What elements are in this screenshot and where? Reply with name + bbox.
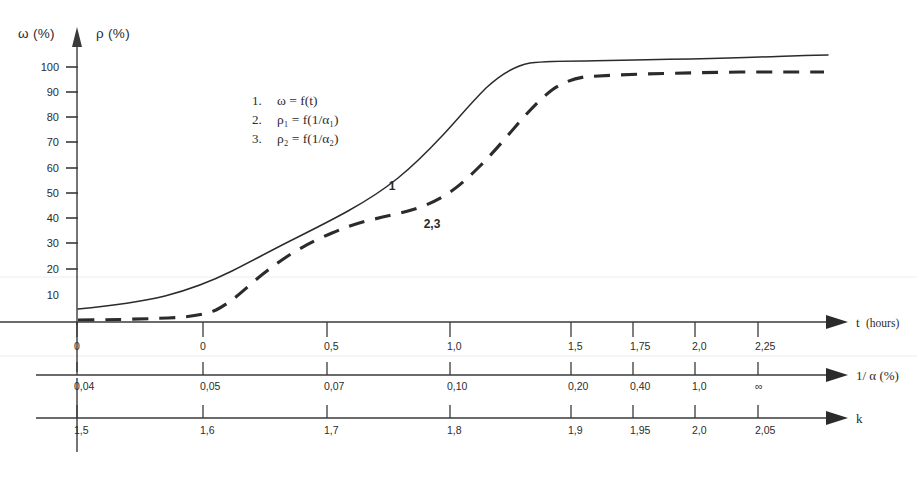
alpha-axis-arrow: [826, 368, 848, 382]
t-axis-label: t: [856, 315, 860, 330]
curve-dashed-omega: [78, 72, 824, 320]
y-tick-label: 70: [47, 136, 59, 148]
t-axis-ticks: [77, 322, 758, 337]
k-tick-label: 1,95: [630, 424, 651, 436]
y-tick-label: 30: [47, 237, 59, 249]
legend-item-equation: ρ₁ = f(1/α₁): [277, 112, 339, 127]
legend: 1. ω = f(t) 2. ρ₁ = f(1/α₁) 3. ρ₂ = f(1/…: [252, 93, 339, 146]
k-axis-tick-labels: 1,5 1,6 1,7 1,8 1,9 1,95 2,0 2,05: [74, 424, 776, 436]
t-tick-label: 2,25: [755, 340, 776, 352]
y-axis-ticks: [66, 67, 78, 269]
alpha-tick-label: 0,05: [200, 380, 221, 392]
alpha-tick-label: 1,0: [692, 380, 707, 392]
k-tick-label: 2,0: [692, 424, 707, 436]
y-axis: [72, 27, 82, 325]
legend-item-number: 1.: [252, 93, 262, 108]
alpha-axis-tick-labels: 0,04 0,05 0,07 0,10 0,20 0,40 1,0 ∞: [74, 380, 763, 392]
alpha-tick-label: 0,07: [324, 380, 345, 392]
k-tick-label: 1,7: [324, 424, 339, 436]
legend-item-equation: ρ₂ = f(1/α₂): [277, 131, 339, 146]
curve-label-dashed: 1: [389, 179, 396, 193]
k-axis-ticks: [77, 405, 758, 418]
k-axis-arrow: [826, 411, 848, 425]
y-axis-tick-labels: 100 90 80 70 60 50 40 30 20 10: [41, 61, 59, 301]
y-tick-label: 100: [41, 61, 59, 73]
alpha-axis-label: 1/ α (%): [856, 368, 899, 383]
k-tick-label: 1,9: [568, 424, 583, 436]
legend-item-number: 3.: [252, 131, 262, 146]
y-tick-label: 50: [47, 187, 59, 199]
y-tick-label: 80: [47, 111, 59, 123]
k-tick-label: 2,05: [755, 424, 776, 436]
y-tick-label: 90: [47, 86, 59, 98]
chart-svg: ω (%) ρ (%) 100 90 80 70 60 50 40: [0, 0, 917, 482]
y-tick-label: 40: [47, 212, 59, 224]
alpha-tick-label: 0,10: [447, 380, 468, 392]
alpha-tick-label: 0,04: [74, 380, 95, 392]
t-axis-unit: (hours): [866, 317, 899, 330]
y-tick-label: 20: [47, 263, 59, 275]
t-tick-label: 0: [200, 340, 206, 352]
t-tick-label: 0,5: [324, 340, 339, 352]
k-axis-label: k: [856, 411, 863, 426]
alpha-tick-label: 0,20: [568, 380, 589, 392]
t-tick-label: 1,5: [568, 340, 583, 352]
alpha-tick-label: ∞: [755, 380, 763, 392]
curve-solid-rho: [78, 55, 828, 309]
y-tick-label: 60: [47, 162, 59, 174]
k-tick-label: 1,5: [74, 424, 89, 436]
legend-item-equation: ω = f(t): [277, 93, 318, 108]
alpha-tick-label: 0,40: [630, 380, 651, 392]
t-tick-label: 1,75: [630, 340, 651, 352]
legend-item-number: 2.: [252, 112, 262, 127]
alpha-axis-ticks: [77, 362, 758, 375]
curve-label-solid: 2,3: [424, 217, 441, 231]
k-tick-label: 1,6: [200, 424, 215, 436]
y-axis-arrow: [72, 27, 82, 47]
t-axis-tick-labels: 0 0 0,5 1,0 1,5 1,75 2,0 2,25: [74, 340, 776, 352]
t-tick-label: 1,0: [447, 340, 462, 352]
rho-axis-header: ρ (%): [96, 26, 130, 41]
k-tick-label: 1,8: [447, 424, 462, 436]
y-tick-label: 10: [47, 289, 59, 301]
t-axis-arrow: [826, 315, 848, 329]
t-tick-label: 2,0: [692, 340, 707, 352]
chart-figure: ω (%) ρ (%) 100 90 80 70 60 50 40: [0, 0, 917, 482]
alpha-axis: 1/ α (%): [36, 368, 899, 383]
omega-axis-header: ω (%): [18, 26, 55, 41]
